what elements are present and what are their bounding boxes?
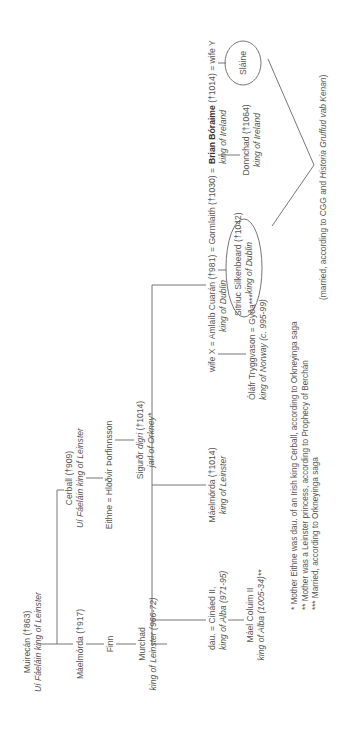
person-name: Donnchad (†1064) [241, 100, 252, 180]
person-death: (†1014) [135, 401, 145, 433]
person-name: = Gormlaith (†1030) = [207, 168, 218, 252]
person-murchad: Murchad king of Leinster (966-72) [137, 594, 159, 694]
note-text: (married, according to CGG and [318, 179, 328, 301]
person-muirecan: Muirecán (†863) Uí Fáeláin king of Leins… [22, 592, 44, 692]
person-name: Finn [105, 624, 116, 664]
person-title: king of Ireland [252, 100, 263, 180]
person-slaine: Sláine [238, 43, 249, 83]
person-title: king of Alba (1005-34)** [256, 560, 267, 670]
genealogy-diagram: Muirecán (†863) Uí Fáeláin king of Leins… [0, 0, 355, 740]
person-epithet: digri [135, 433, 145, 449]
person-title: king of Norway (c. 995-99) [258, 294, 269, 400]
person-cerball: Cerball (†909) Uí Fáeláin king of Leinst… [64, 418, 86, 538]
person-name: Murchad [137, 594, 148, 694]
person-sigurdr: Sigurðr digri (†1014) jarl of Orkney* [135, 390, 157, 490]
person-death: (†1014) = wife Y [207, 40, 217, 105]
marriage-note: (married, according to CGG and Historia … [318, 75, 328, 300]
person-name: Máelmórda (†917) [75, 604, 86, 684]
person-name: Sláine [238, 43, 249, 83]
person-title: king of Dublin [218, 255, 229, 372]
person-maelmorda-1014: Máelmórda (†1014) king of Leinster [207, 445, 229, 525]
person-title: jarl of Orkney* [146, 390, 157, 490]
person-title: king of Leinster [218, 445, 229, 525]
person-maelmorda-917: Máelmórda (†917) [75, 604, 86, 684]
person-title: king of Dublin [244, 220, 255, 316]
footnote-1: * Mother Eithne was dau. of an Irish kin… [290, 321, 301, 610]
person-name: Sigurðr [135, 449, 145, 479]
person-name: wife X = Amlaíb Cuarán (†981) [207, 255, 218, 372]
footnotes: * Mother Eithne was dau. of an Irish kin… [290, 321, 322, 610]
person-name: Sitriuc Silkenbeard (†1042) [233, 220, 244, 316]
couple-eithne-hlodvir: Eithne = Hlöðvir Þorfinnsson [104, 415, 115, 535]
footnote-2: ** Mother was a Leinster princess, accor… [301, 321, 312, 610]
person-gormlaith: = Gormlaith (†1030) = [207, 168, 218, 252]
person-title: Uí Fáeláin king of Leinster [33, 592, 44, 692]
person-title: king of Leinster (966-72) [148, 594, 159, 694]
person-finn: Finn [105, 624, 116, 664]
couple-dau-cinaed: dau. = Cináed II, king of Alba (971-95) [207, 571, 229, 650]
note-text: ) [318, 75, 328, 78]
person-title: king of Ireland [218, 40, 229, 164]
person-name: dau. = Cináed II, [207, 571, 218, 650]
person-donnchad: Donnchad (†1064) king of Ireland [241, 100, 263, 180]
person-name: Eithne = Hlöðvir Þorfinnsson [104, 415, 115, 535]
person-name: Muirecán (†863) [22, 592, 33, 692]
note-italic-text: Historia Gruffud vab Kenan [318, 77, 328, 178]
person-title: king of Alba (971-95) [218, 571, 229, 650]
person-mael-coluim: Máel Coluim II king of Alba (1005-34)** [245, 560, 267, 670]
footnote-3: *** Married, according to Orkneyinga sag… [311, 321, 322, 610]
person-brian-boraime: Brian Bóraime (†1014) = wife Y king of I… [207, 40, 229, 164]
couple-wifex-amlaib: wife X = Amlaíb Cuarán (†981) king of Du… [207, 255, 229, 372]
person-title: Uí Fáeláin king of Leinster [75, 418, 86, 538]
person-name: Máel Coluim II [245, 560, 256, 670]
person-sitriuc: Sitriuc Silkenbeard (†1042) king of Dubl… [233, 220, 255, 316]
person-name: Cerball (†909) [64, 418, 75, 538]
person-name: Brian Bóraime [207, 105, 217, 164]
person-name: Máelmórda (†1014) [207, 445, 218, 525]
